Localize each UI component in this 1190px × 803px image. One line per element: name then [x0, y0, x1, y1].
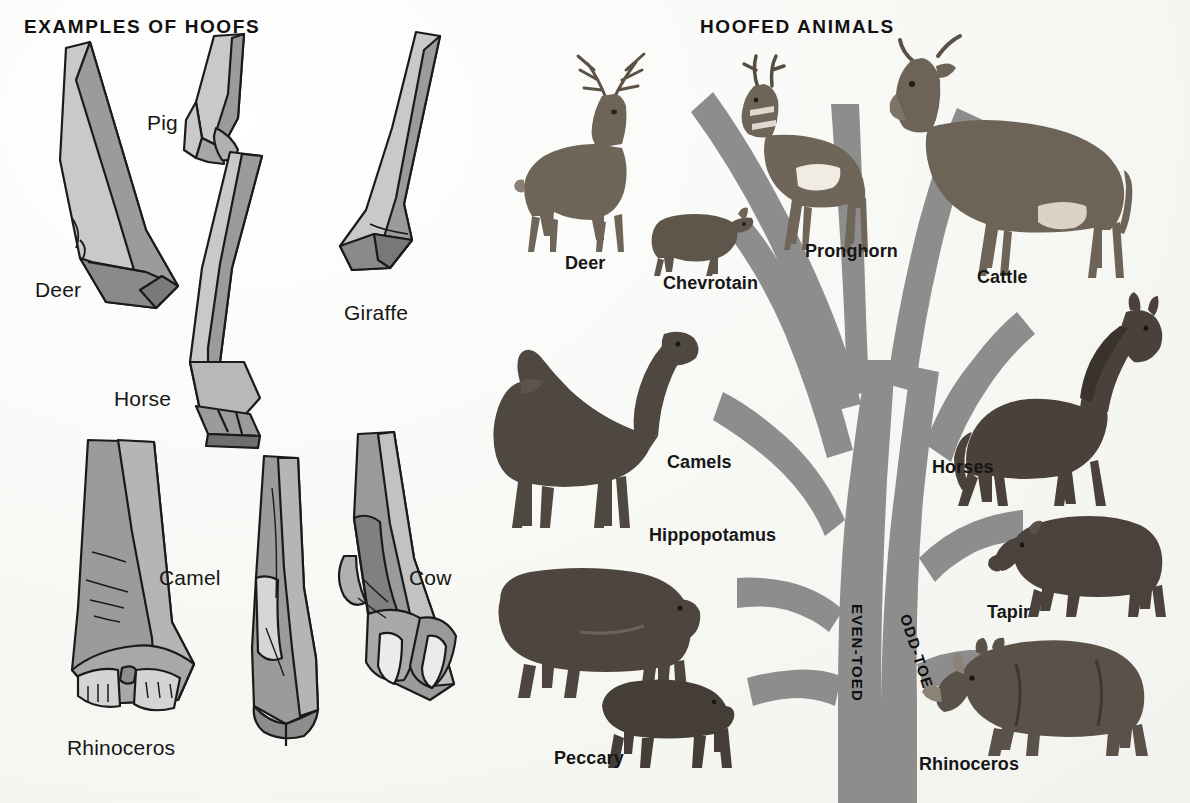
- hoofed-animals-plate: EXAMPLES OF HOOFS: [0, 0, 1190, 803]
- hoof-label-rhinoceros: Rhinoceros: [67, 736, 175, 760]
- animal-illustration-pronghorn: [736, 48, 896, 258]
- hoof-label-giraffe: Giraffe: [344, 301, 408, 325]
- animal-label-chevrotain: Chevrotain: [663, 273, 758, 294]
- hoof-label-deer: Deer: [35, 278, 81, 302]
- animal-label-horses: Horses: [932, 457, 994, 478]
- branch-label-even-toed: EVEN-TOED: [849, 604, 866, 702]
- animal-illustration-camels: [478, 290, 728, 530]
- hoof-drawing-horse: [172, 148, 312, 458]
- hoof-label-camel: Camel: [159, 566, 221, 590]
- animal-illustration-rhinoceros: [920, 630, 1150, 760]
- hoof-label-pig: Pig: [147, 111, 178, 135]
- animal-label-hippopotamus: Hippopotamus: [649, 525, 776, 546]
- hoof-label-cow: Cow: [409, 566, 452, 590]
- animal-label-camels: Camels: [667, 452, 732, 473]
- animal-label-tapir: Tapir: [987, 602, 1030, 623]
- animal-label-cattle: Cattle: [977, 267, 1028, 288]
- animal-label-deer: Deer: [565, 253, 605, 274]
- hoof-drawing-giraffe: [318, 28, 458, 298]
- animal-illustration-cattle: [888, 30, 1138, 280]
- animal-label-pronghorn: Pronghorn: [805, 241, 898, 262]
- animal-label-peccary: Peccary: [554, 748, 624, 769]
- animal-label-rhinoceros: Rhinoceros: [919, 754, 1019, 775]
- hoof-label-horse: Horse: [114, 387, 171, 411]
